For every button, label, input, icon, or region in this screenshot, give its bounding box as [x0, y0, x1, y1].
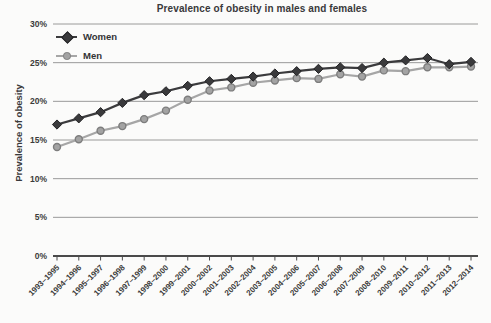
- legend-label-women: Women: [83, 31, 117, 42]
- men-data-point: [359, 73, 366, 80]
- women-diamond-marker-icon: [56, 32, 77, 42]
- men-data-point: [424, 64, 431, 71]
- women-data-point: [161, 87, 170, 96]
- women-data-point: [140, 91, 149, 100]
- men-data-point: [97, 127, 104, 134]
- y-tick-label: 5%: [35, 212, 48, 222]
- women-data-point: [401, 56, 410, 65]
- men-data-point: [228, 84, 235, 91]
- legend-item-women: Women: [56, 27, 117, 46]
- obesity-prevalence-chart: Prevalence of obesity in males and femal…: [0, 0, 491, 323]
- women-data-point: [379, 58, 388, 67]
- women-data-point: [423, 53, 432, 62]
- men-data-point: [315, 75, 322, 82]
- y-tick-label: 20%: [30, 96, 47, 106]
- women-data-point: [336, 63, 345, 72]
- legend: Women Men: [56, 27, 117, 65]
- men-data-point: [119, 123, 126, 130]
- y-tick-label: 25%: [30, 58, 47, 68]
- y-tick-label: 30%: [30, 19, 47, 29]
- women-data-point: [227, 74, 236, 83]
- women-line: [57, 58, 471, 125]
- women-data-point: [96, 108, 105, 117]
- women-data-point: [249, 72, 258, 81]
- men-data-point: [184, 96, 191, 103]
- men-data-point: [402, 68, 409, 75]
- y-tick-label: 15%: [30, 135, 47, 145]
- women-data-point: [357, 63, 366, 72]
- women-data-point: [270, 69, 279, 78]
- legend-label-men: Men: [83, 50, 102, 61]
- women-data-point: [118, 98, 127, 107]
- y-tick-label: 10%: [30, 174, 47, 184]
- men-data-point: [206, 87, 213, 94]
- women-data-point: [314, 64, 323, 73]
- women-data-point: [205, 77, 214, 86]
- women-data-point: [183, 81, 192, 90]
- men-data-point: [54, 143, 61, 150]
- men-data-point: [75, 136, 82, 143]
- legend-item-men: Men: [56, 46, 117, 65]
- men-circle-marker-icon: [56, 51, 77, 61]
- women-data-point: [74, 114, 83, 123]
- men-data-point: [162, 107, 169, 114]
- women-data-point: [292, 67, 301, 76]
- y-tick-label: 0%: [35, 251, 48, 261]
- men-data-point: [141, 116, 148, 123]
- women-data-point: [52, 120, 61, 129]
- men-line: [57, 67, 471, 147]
